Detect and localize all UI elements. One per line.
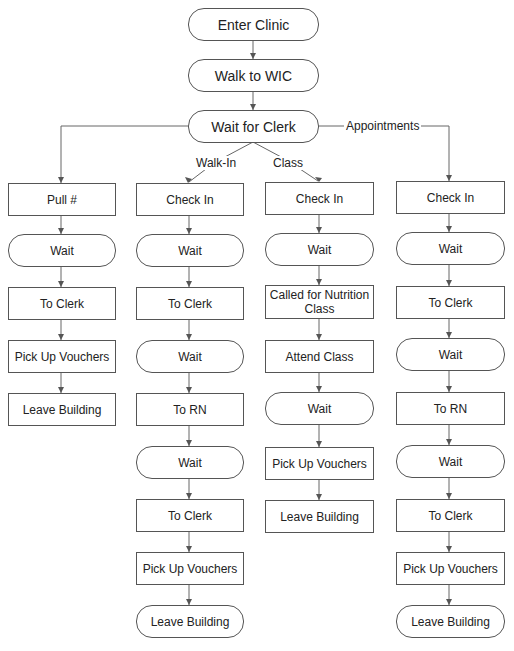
node-enter-clinic: Enter Clinic: [188, 8, 319, 41]
col4-step-leave-building: Leave Building: [396, 605, 505, 638]
col2-step-wait: Wait: [136, 340, 244, 373]
col1-step-pull-number: Pull #: [8, 183, 116, 216]
col3-step-check-in: Check In: [265, 182, 374, 215]
col2-step-leave-building: Leave Building: [136, 605, 244, 638]
col3-step-wait: Wait: [265, 233, 374, 266]
col4-step-to-clerk: To Clerk: [396, 286, 505, 319]
branch-label-appointments: Appointments: [344, 119, 421, 133]
col2-step-check-in: Check In: [136, 183, 244, 216]
col4-step-wait: Wait: [396, 338, 505, 371]
col3-step-leave-building: Leave Building: [265, 500, 374, 533]
col3-step-attend-class: Attend Class: [265, 340, 374, 373]
col4-step-to-clerk: To Clerk: [396, 499, 505, 532]
col2-step-wait: Wait: [136, 234, 244, 267]
col4-step-pick-up-vouchers: Pick Up Vouchers: [396, 552, 505, 585]
col2-step-to-rn: To RN: [136, 393, 244, 426]
node-wait-for-clerk: Wait for Clerk: [188, 110, 319, 143]
col2-step-to-clerk: To Clerk: [136, 287, 244, 320]
col2-step-wait: Wait: [136, 446, 244, 479]
col1-step-wait: Wait: [8, 234, 116, 267]
col4-step-wait: Wait: [396, 232, 505, 265]
col4-step-to-rn: To RN: [396, 392, 505, 425]
col1-step-to-clerk: To Clerk: [8, 287, 116, 320]
branch-label-walk-in: Walk-In: [194, 156, 238, 170]
col3-step-called-for-nutrition-class: Called for Nutrition Class: [265, 285, 374, 319]
col2-step-to-clerk: To Clerk: [136, 499, 244, 532]
col1-step-leave-building: Leave Building: [8, 393, 116, 426]
branch-label-class: Class: [271, 156, 305, 170]
col1-step-pick-up-vouchers: Pick Up Vouchers: [8, 340, 116, 373]
col2-step-pick-up-vouchers: Pick Up Vouchers: [136, 552, 244, 585]
node-walk-to-wic: Walk to WIC: [188, 59, 319, 92]
col3-step-pick-up-vouchers: Pick Up Vouchers: [265, 447, 374, 480]
col4-step-wait: Wait: [396, 445, 505, 478]
col4-step-check-in: Check In: [396, 181, 505, 214]
col3-step-wait: Wait: [265, 392, 374, 425]
